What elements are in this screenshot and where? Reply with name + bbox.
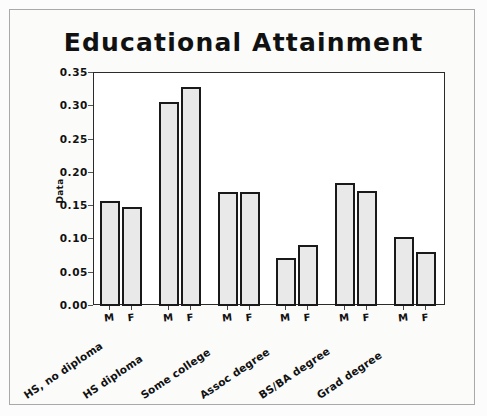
bar-m-4 <box>335 183 355 306</box>
x-axis-tick-mark <box>344 306 345 310</box>
x-tick-label-m: M <box>104 312 115 324</box>
plot-area <box>93 72 445 305</box>
x-axis-tick-mark <box>109 306 110 310</box>
bar-m-1 <box>159 102 179 306</box>
x-axis-tick-mark <box>249 306 250 310</box>
x-axis-tick-mark <box>425 306 426 310</box>
y-axis-tick-label: 0.25 <box>40 133 88 145</box>
x-tick-label-m: M <box>280 312 291 324</box>
x-tick-label-f: F <box>421 312 429 324</box>
x-axis-tick-mark <box>403 306 404 310</box>
chart-page: Educational Attainment Data 0.000.050.10… <box>0 0 487 416</box>
bar-m-2 <box>218 192 238 306</box>
x-axis-tick-mark <box>285 306 286 310</box>
y-axis-tick-label: 0.35 <box>40 66 88 78</box>
x-tick-label-m: M <box>397 312 408 324</box>
bar-f-2 <box>240 192 260 306</box>
bar-m-0 <box>100 201 120 306</box>
x-tick-label-m: M <box>338 312 349 324</box>
y-axis-tick-label: 0.10 <box>40 232 88 244</box>
bar-m-5 <box>394 237 414 306</box>
y-axis-tick-label: 0.15 <box>40 199 88 211</box>
y-axis-tick-label: 0.05 <box>40 266 88 278</box>
x-axis-tick-mark <box>366 306 367 310</box>
chart-title: Educational Attainment <box>0 28 487 57</box>
x-tick-label-f: F <box>186 312 194 324</box>
x-tick-label-f: F <box>362 312 370 324</box>
y-axis-tick-label: 0.30 <box>40 99 88 111</box>
y-axis-tick-label: 0.00 <box>40 299 88 311</box>
x-axis-tick-mark <box>307 306 308 310</box>
bar-f-3 <box>298 245 318 306</box>
bars-container <box>94 73 444 304</box>
x-tick-label-f: F <box>127 312 135 324</box>
bar-m-3 <box>276 258 296 306</box>
x-axis-tick-mark <box>131 306 132 310</box>
y-axis-tick-mark <box>88 305 93 306</box>
x-tick-label-m: M <box>162 312 173 324</box>
x-axis-tick-mark <box>190 306 191 310</box>
bar-f-0 <box>122 207 142 306</box>
x-axis-tick-mark <box>227 306 228 310</box>
y-axis-tick-label: 0.20 <box>40 166 88 178</box>
x-tick-label-f: F <box>303 312 311 324</box>
x-tick-label-f: F <box>245 312 253 324</box>
x-tick-label-m: M <box>221 312 232 324</box>
bar-f-1 <box>181 87 201 306</box>
x-axis-tick-mark <box>168 306 169 310</box>
bar-f-5 <box>416 252 436 306</box>
bar-f-4 <box>357 191 377 306</box>
